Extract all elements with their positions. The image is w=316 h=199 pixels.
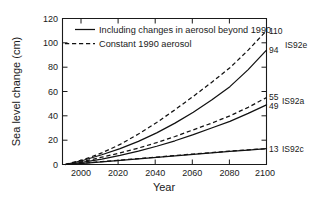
x-axis-title: Year (153, 181, 176, 193)
legend: Including changes in aerosol beyond 1990… (65, 25, 271, 49)
y-tick-label: 60 (48, 87, 58, 97)
x-tick-label: 2060 (182, 168, 202, 178)
x-tick-label: 2080 (219, 168, 239, 178)
curve-is92e-solid (65, 50, 266, 164)
y-tick-label: 0 (53, 160, 58, 170)
x-tick-label: 2100 (255, 168, 275, 178)
endpoint-value-94: 94 (269, 45, 279, 55)
endpoint-value-13: 13 (269, 144, 279, 154)
sea-level-line-chart: 0 20 40 60 80 100 120 2000 2020 (0, 0, 316, 199)
endpoint-value-110: 110 (269, 26, 283, 36)
data-curves (65, 31, 266, 165)
y-tick-label: 120 (43, 14, 58, 24)
scenario-label-is92a: IS92a (282, 96, 304, 106)
scenario-label-is92e: IS92e (285, 40, 307, 50)
y-axis-tick-labels: 0 20 40 60 80 100 120 (43, 14, 58, 170)
endpoint-labels: 110 IS92e 94 55 IS92a 49 13 IS92c (269, 26, 307, 154)
curve-is92e-dashed (65, 31, 266, 165)
x-axis-tick-labels: 2000 2020 2040 2060 2080 2100 (71, 168, 275, 178)
legend-label-solid: Including changes in aerosol beyond 1990 (99, 25, 271, 35)
scenario-label-is92c: IS92c (282, 144, 304, 154)
endpoint-value-49: 49 (269, 101, 279, 111)
y-tick-label: 80 (48, 62, 58, 72)
x-tick-label: 2020 (108, 168, 128, 178)
y-tick-label: 40 (48, 111, 58, 121)
y-tick-label: 20 (48, 135, 58, 145)
curve-is92a-dashed (65, 98, 266, 165)
figure-container: 0 20 40 60 80 100 120 2000 2020 (0, 0, 316, 199)
x-tick-label: 2040 (145, 168, 165, 178)
x-tick-label: 2000 (71, 168, 91, 178)
legend-label-dashed: Constant 1990 aerosol (99, 39, 191, 49)
y-axis-title: Sea level change (cm) (10, 37, 22, 146)
y-tick-label: 100 (43, 38, 58, 48)
